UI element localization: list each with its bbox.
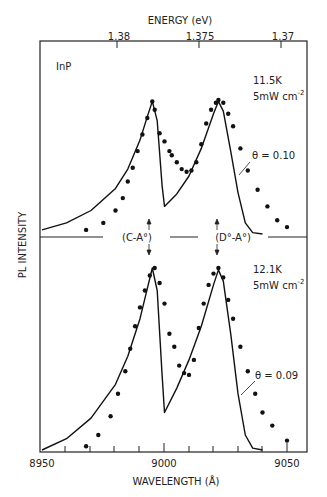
data-point	[138, 305, 142, 309]
data-point	[216, 98, 220, 102]
bottom-ticks	[65, 443, 287, 452]
data-point	[202, 301, 206, 305]
data-point	[216, 266, 220, 270]
data-point	[285, 225, 289, 229]
plot-frame	[40, 41, 307, 452]
data-point	[182, 371, 186, 375]
pl-spectrum-figure: ENERGY (eV) 1.38 1.375 1.37 8950 9000 90…	[0, 0, 327, 497]
data-point	[270, 423, 274, 427]
data-point	[170, 153, 174, 157]
data-point	[246, 369, 250, 373]
data-point	[153, 108, 157, 112]
bottom-panel-plot	[42, 266, 289, 450]
bottom-power-exp: -2	[297, 278, 304, 286]
data-point	[206, 283, 210, 287]
bottom-tick-8950: 8950	[29, 458, 54, 469]
data-point	[84, 228, 88, 232]
data-point	[135, 149, 139, 153]
data-point	[285, 438, 289, 442]
data-point	[197, 326, 201, 330]
data-point	[204, 121, 208, 125]
bottom-tick-9000: 9000	[151, 458, 176, 469]
data-point	[180, 167, 184, 171]
data-point	[143, 288, 147, 292]
bottom-power-label: 5mW cm-2	[253, 278, 304, 291]
data-point	[172, 345, 176, 349]
data-point	[133, 324, 137, 328]
top-ticks	[117, 41, 281, 48]
data-point	[275, 218, 279, 222]
data-point	[238, 146, 242, 150]
bottom-tick-9050: 9050	[274, 458, 299, 469]
data-point	[199, 142, 203, 146]
top-panel-plot	[42, 98, 289, 234]
data-point	[145, 116, 149, 120]
data-point	[123, 369, 127, 373]
data-point	[209, 108, 213, 112]
theory-curve	[42, 268, 263, 450]
data-point	[253, 392, 257, 396]
data-point	[140, 132, 144, 136]
data-point	[157, 131, 161, 135]
data-point	[157, 281, 161, 285]
data-point	[194, 160, 198, 164]
data-point	[238, 345, 242, 349]
peak-label-d-a: (D°-A°)	[215, 232, 251, 243]
data-point	[126, 179, 130, 183]
y-axis-label: PL INTENSITY	[17, 211, 28, 279]
data-point	[121, 196, 125, 200]
data-point	[131, 166, 135, 170]
data-point	[211, 271, 215, 275]
bottom-axis-label: WAVELENGTH (Å)	[133, 475, 220, 487]
data-point	[162, 301, 166, 305]
data-point	[167, 149, 171, 153]
top-axis-label: ENERGY (eV)	[148, 15, 212, 26]
data-point	[226, 112, 230, 116]
data-point	[187, 373, 191, 377]
top-power-label: 5mW cm-2	[253, 89, 304, 102]
data-point	[128, 347, 132, 351]
data-point	[226, 298, 230, 302]
data-point	[255, 188, 259, 192]
top-temperature-label: 11.5K	[253, 75, 282, 86]
bottom-power-text: 5mW cm	[253, 280, 297, 291]
data-point	[96, 433, 100, 437]
peak-label-c-a: (C-A°)	[122, 232, 152, 243]
data-point	[265, 204, 269, 208]
top-power-text: 5mW cm	[253, 91, 297, 102]
data-point	[84, 444, 88, 448]
data-point	[260, 410, 264, 414]
data-point	[150, 99, 154, 103]
data-point	[177, 363, 181, 367]
data-point	[101, 221, 105, 225]
data-point	[221, 275, 225, 279]
data-point	[175, 160, 179, 164]
data-point	[184, 170, 188, 174]
data-point	[189, 168, 193, 172]
bottom-temperature-label: 12.1K	[253, 264, 282, 275]
bottom-fit-label: θ = 0.09	[255, 370, 298, 381]
data-point	[148, 273, 152, 277]
data-point	[231, 124, 235, 128]
data-point	[192, 358, 196, 362]
theory-curve	[42, 101, 263, 234]
data-point	[231, 317, 235, 321]
sample-label: InP	[56, 61, 71, 72]
top-fit-label: θ = 0.10	[252, 150, 295, 161]
data-point	[113, 208, 117, 212]
top-tick-1.375: 1.375	[186, 31, 215, 42]
data-point	[108, 414, 112, 418]
data-point	[167, 332, 171, 336]
top-tick-1.37: 1.37	[272, 31, 294, 42]
top-tick-1.38: 1.38	[108, 31, 130, 42]
top-power-exp: -2	[297, 89, 304, 97]
data-point	[162, 139, 166, 143]
data-point	[116, 392, 120, 396]
data-point	[246, 168, 250, 172]
data-point	[153, 266, 157, 270]
data-point	[221, 101, 225, 105]
bottom-fit-pointer	[241, 381, 255, 395]
